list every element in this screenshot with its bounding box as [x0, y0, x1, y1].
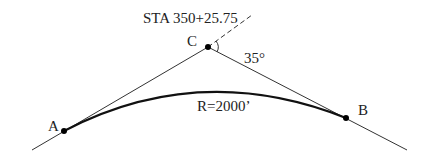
point-b-label: B	[358, 102, 368, 118]
deflection-angle-arc	[216, 41, 218, 52]
deflection-angle-label: 35°	[244, 50, 265, 66]
point-c-label: C	[187, 33, 197, 49]
radius-label: R=2000’	[197, 98, 250, 114]
curve-diagram: STA 350+25.75 C 35° R=2000’ A B	[0, 0, 427, 160]
diagram-svg: STA 350+25.75 C 35° R=2000’ A B	[0, 0, 427, 160]
point-b-marker	[343, 115, 349, 121]
point-c-marker	[205, 44, 211, 50]
back-tangent-line	[32, 47, 208, 150]
station-label: STA 350+25.75	[143, 10, 238, 26]
point-a-marker	[61, 128, 67, 134]
point-a-label: A	[48, 118, 59, 134]
